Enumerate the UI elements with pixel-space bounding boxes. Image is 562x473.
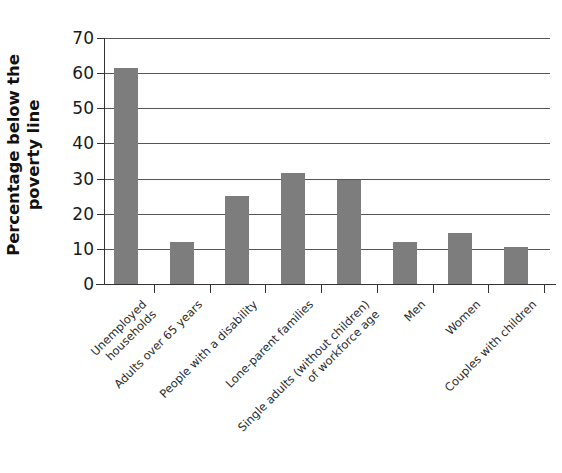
x-tick-label: Adults over 65 years xyxy=(47,298,205,456)
y-tick-mark xyxy=(97,73,105,74)
y-tick-mark xyxy=(97,179,105,180)
gridline xyxy=(104,214,550,215)
x-tick-mark xyxy=(544,284,545,293)
x-tick-mark xyxy=(321,284,322,293)
gridline xyxy=(104,73,550,74)
y-tick-mark xyxy=(97,108,105,109)
y-tick-mark xyxy=(97,38,105,39)
y-tick-mark xyxy=(97,284,105,285)
bar xyxy=(114,68,138,284)
y-tick-label: 40 xyxy=(52,133,94,153)
bar xyxy=(448,233,472,284)
bar xyxy=(337,180,361,284)
y-axis-title-line-1: Percentage below the xyxy=(4,20,23,290)
y-tick-label: 0 xyxy=(52,274,94,294)
x-tick-label: Men xyxy=(270,298,428,456)
gridline xyxy=(104,143,550,144)
y-axis-title-line-2: poverty line xyxy=(24,20,43,290)
x-tick-label: People with a disability xyxy=(103,298,261,456)
x-tick-mark xyxy=(488,284,489,293)
y-tick-label: 60 xyxy=(52,63,94,83)
y-tick-label: 20 xyxy=(52,204,94,224)
gridline xyxy=(104,38,550,39)
y-tick-mark xyxy=(97,143,105,144)
x-tick-label: Women xyxy=(326,298,484,456)
x-tick-label: Lone-parent families xyxy=(159,298,317,456)
gridline xyxy=(104,179,550,180)
bar xyxy=(504,247,528,284)
bar-chart: Percentage below the poverty line 010203… xyxy=(0,0,562,473)
bar xyxy=(170,242,194,284)
gridline xyxy=(104,108,550,109)
bar xyxy=(393,242,417,284)
x-tick-mark xyxy=(210,284,211,293)
x-tick-mark xyxy=(433,284,434,293)
x-tick-mark xyxy=(265,284,266,293)
plot-area: 010203040506070 xyxy=(104,38,550,284)
y-tick-mark xyxy=(97,249,105,250)
x-tick-mark xyxy=(377,284,378,293)
y-tick-label: 70 xyxy=(52,28,94,48)
x-axis-line xyxy=(96,284,556,285)
x-tick-label: Couples with children xyxy=(382,298,540,456)
y-tick-mark xyxy=(97,214,105,215)
y-axis-line xyxy=(104,38,105,284)
bar xyxy=(225,196,249,284)
y-tick-label: 30 xyxy=(52,169,94,189)
x-tick-mark xyxy=(154,284,155,293)
y-tick-label: 50 xyxy=(52,98,94,118)
x-tick-label: Single adults (without children) of work… xyxy=(214,298,382,466)
x-tick-label: Unemployed households xyxy=(0,298,159,466)
bar xyxy=(281,173,305,284)
y-tick-label: 10 xyxy=(52,239,94,259)
